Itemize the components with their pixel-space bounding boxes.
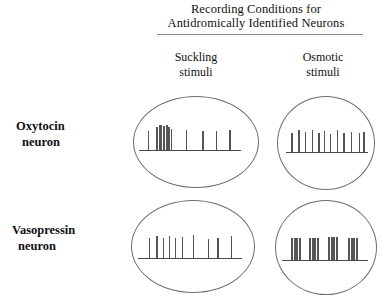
figure-header: Recording Conditions for Antidromically … [130,2,382,30]
spike-mark [324,131,325,152]
spike-mark [208,239,209,258]
header-divider-rule [157,34,363,35]
spike-mark [156,127,158,150]
spike-train-baseline [139,150,241,151]
spike-mark [182,237,183,258]
row-label-vasopressin-neuron: Vasopressin neuron [8,222,132,254]
figure-header-line-1: Recording Conditions for [130,2,382,16]
spike-mark [169,236,170,258]
spike-mark [156,236,157,258]
row-label-vasopressin-line-2: neuron [12,238,132,254]
column-header-osmotic-line-1: Osmotic [303,50,344,64]
spike-mark [193,235,194,258]
spike-mark [336,237,338,260]
row-label-oxytocin-line-2: neuron [16,134,136,150]
spike-train-vasopressin-suckling [132,225,254,259]
spike-mark [175,238,176,258]
column-header-osmotic: Osmotic stimuli [258,50,382,79]
spike-mark [305,132,306,152]
spike-mark [343,133,344,152]
spike-mark [229,130,230,150]
spike-mark [149,238,150,258]
spike-mark [318,133,319,152]
spike-mark [148,131,149,150]
row-label-oxytocin-line-1: Oxytocin [16,119,65,133]
column-header-suckling-line-1: Suckling [175,50,218,64]
spike-mark [231,236,232,258]
panel-oxytocin-suckling [133,96,259,188]
panel-oxytocin-osmotic [277,96,375,190]
spike-mark [359,133,360,152]
column-header-suckling: Suckling stimuli [131,50,261,79]
panel-vasopressin-suckling [131,200,255,293]
spike-mark [217,238,218,258]
spike-mark [351,132,352,152]
column-header-osmotic-line-2: stimuli [258,65,382,80]
spike-mark [291,133,292,152]
row-label-vasopressin-line-1: Vasopressin [12,223,75,237]
spike-train-oxytocin-suckling [134,117,258,151]
spike-train-oxytocin-osmotic [278,119,374,153]
column-header-suckling-line-2: stimuli [131,65,261,80]
spike-mark [202,131,203,150]
spike-mark [363,132,364,152]
spike-train-vasopressin-osmotic [276,227,376,261]
spike-mark [337,130,338,152]
row-label-oxytocin-neuron: Oxytocin neuron [8,118,136,150]
spike-mark [171,129,173,150]
spike-mark [163,238,164,258]
spike-train-baseline [138,258,242,259]
spike-mark [299,238,301,260]
spike-mark [356,238,358,260]
spike-mark [330,134,331,152]
spike-mark [317,238,319,260]
figure-header-line-2: Antidromically Identified Neurons [130,16,382,30]
spike-mark [298,130,299,152]
spike-mark [216,131,217,150]
panel-vasopressin-osmotic [275,200,377,295]
spike-mark [186,130,187,150]
spike-mark [312,130,313,152]
